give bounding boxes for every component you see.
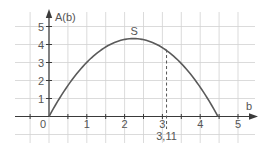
x-tick-label: 1 xyxy=(84,118,90,130)
plot-area xyxy=(49,39,218,129)
vertex-label: S xyxy=(130,25,137,37)
x-axis-arrow-icon xyxy=(249,113,258,119)
y-tick-label: 2 xyxy=(38,75,44,87)
x-tick-label: 3 xyxy=(159,118,165,130)
x-tick-label: 0 xyxy=(40,118,46,130)
x-axis-label: b xyxy=(246,100,252,112)
marker-value-label: 3,11 xyxy=(156,130,177,142)
y-tick-label: 3 xyxy=(38,57,44,69)
x-tick-label: 5 xyxy=(235,118,241,130)
x-tick-label: 2 xyxy=(122,118,128,130)
y-tick-label: 4 xyxy=(38,39,44,51)
parabola-chart: 01234512345A(b)bS3,11 xyxy=(0,0,265,152)
curve-A-of-b xyxy=(49,39,218,117)
y-axis-arrow-icon xyxy=(46,9,52,18)
labels: 01234512345A(b)bS3,11 xyxy=(38,11,252,142)
y-tick-label: 5 xyxy=(38,21,44,33)
y-tick-label: 1 xyxy=(38,93,44,105)
y-axis-label: A(b) xyxy=(55,11,76,23)
x-tick-label: 4 xyxy=(197,118,203,130)
